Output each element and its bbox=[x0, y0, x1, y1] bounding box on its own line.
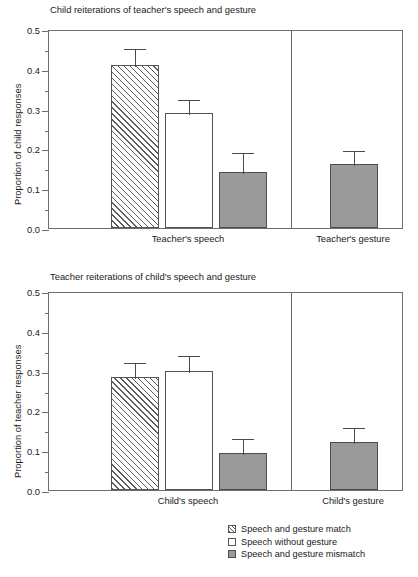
error-bar-stem bbox=[135, 49, 136, 67]
y-tick-minor bbox=[45, 353, 49, 354]
legend-swatch-solid bbox=[228, 550, 236, 558]
bar-hatch bbox=[111, 377, 159, 490]
legend-label: Speech and gesture match bbox=[241, 524, 351, 534]
bar-hatch bbox=[111, 65, 159, 228]
y-tick-label: 0.2 bbox=[14, 144, 40, 155]
y-tick-major bbox=[42, 492, 49, 493]
y-tick-label: 0.1 bbox=[14, 446, 40, 457]
x-axis-label: Teacher's speech bbox=[152, 233, 225, 244]
y-tick-major bbox=[42, 452, 49, 453]
y-tick-major bbox=[42, 373, 49, 374]
y-tick-major bbox=[42, 333, 49, 334]
legend-label: Speech and gesture mismatch bbox=[241, 549, 365, 559]
y-tick-major bbox=[42, 293, 49, 294]
bar-open bbox=[165, 113, 213, 228]
y-tick-minor bbox=[45, 313, 49, 314]
y-tick-label: 0.4 bbox=[14, 64, 40, 75]
bar-solid bbox=[330, 164, 378, 228]
group-divider bbox=[291, 31, 292, 228]
error-bar-stem bbox=[243, 439, 244, 455]
error-bar-cap bbox=[232, 153, 254, 154]
legend-item: Speech without gesture bbox=[228, 537, 365, 547]
y-tick-major bbox=[42, 31, 49, 32]
y-tick-label: 0.5 bbox=[14, 25, 40, 36]
y-tick-major bbox=[42, 71, 49, 72]
y-tick-major bbox=[42, 412, 49, 413]
y-tick-minor bbox=[45, 91, 49, 92]
y-tick-minor bbox=[45, 210, 49, 211]
y-tick-minor bbox=[45, 170, 49, 171]
y-tick-major bbox=[42, 111, 49, 112]
chart-panel-top: Child reiterations of teacher's speech a… bbox=[0, 0, 418, 255]
legend-item: Speech and gesture match bbox=[228, 524, 365, 534]
error-bar-cap bbox=[343, 428, 365, 429]
y-tick-label: 0.1 bbox=[14, 184, 40, 195]
group-divider bbox=[291, 293, 292, 490]
error-bar-stem bbox=[189, 100, 190, 115]
legend-swatch-hatch bbox=[228, 525, 236, 533]
y-tick-minor bbox=[45, 51, 49, 52]
error-bar-stem bbox=[243, 153, 244, 174]
chart-legend: Speech and gesture matchSpeech without g… bbox=[228, 524, 365, 562]
error-bar-cap bbox=[178, 100, 200, 101]
y-tick-minor bbox=[45, 432, 49, 433]
bar-solid bbox=[219, 172, 267, 228]
error-bar-cap bbox=[343, 151, 365, 152]
y-tick-major bbox=[42, 150, 49, 151]
y-tick-label: 0.0 bbox=[14, 486, 40, 497]
y-tick-label: 0.5 bbox=[14, 287, 40, 298]
y-tick-major bbox=[42, 230, 49, 231]
y-tick-label: 0.3 bbox=[14, 104, 40, 115]
y-tick-label: 0.2 bbox=[14, 406, 40, 417]
error-bar-cap bbox=[124, 49, 146, 50]
chart-panel-bottom: Teacher reiterations of child's speech a… bbox=[0, 268, 418, 518]
y-tick-major bbox=[42, 190, 49, 191]
y-tick-minor bbox=[45, 472, 49, 473]
plot-area-top bbox=[48, 30, 403, 229]
x-axis-label: Child's gesture bbox=[322, 495, 384, 506]
bar-solid bbox=[219, 453, 267, 490]
error-bar-stem bbox=[135, 363, 136, 379]
error-bar-stem bbox=[189, 356, 190, 373]
panel-title-bottom: Teacher reiterations of child's speech a… bbox=[50, 271, 256, 282]
bar-open bbox=[165, 371, 213, 490]
legend-label: Speech without gesture bbox=[241, 537, 337, 547]
error-bar-stem bbox=[354, 428, 355, 444]
bar-solid bbox=[330, 442, 378, 490]
y-tick-label: 0.3 bbox=[14, 366, 40, 377]
y-tick-minor bbox=[45, 393, 49, 394]
error-bar-cap bbox=[124, 363, 146, 364]
error-bar-stem bbox=[354, 151, 355, 166]
legend-swatch-open bbox=[228, 538, 236, 546]
error-bar-cap bbox=[178, 356, 200, 357]
error-bar-cap bbox=[232, 439, 254, 440]
plot-area-bottom bbox=[48, 292, 403, 491]
x-axis-label: Teacher's gesture bbox=[316, 233, 390, 244]
y-tick-label: 0.0 bbox=[14, 224, 40, 235]
panel-title-top: Child reiterations of teacher's speech a… bbox=[50, 4, 256, 15]
x-axis-label: Child's speech bbox=[158, 495, 219, 506]
y-tick-minor bbox=[45, 131, 49, 132]
legend-item: Speech and gesture mismatch bbox=[228, 549, 365, 559]
y-tick-label: 0.4 bbox=[14, 326, 40, 337]
